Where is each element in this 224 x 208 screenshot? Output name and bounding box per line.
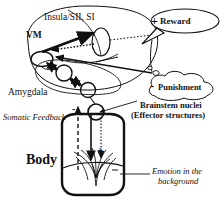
label-insula: Insula/SII, SI bbox=[44, 13, 95, 23]
body-container bbox=[62, 114, 124, 195]
punishment-minus-sign: - bbox=[150, 80, 154, 92]
label-punishment: Punishment bbox=[158, 83, 201, 92]
label-reward: Reward bbox=[160, 17, 191, 26]
somatic-feedback-minus-sign: - bbox=[72, 104, 75, 114]
label-effector-structures: (Effector structures) bbox=[131, 111, 205, 120]
label-body: Body bbox=[26, 153, 57, 167]
label-somatic-feedback: Somatic Feedback bbox=[3, 113, 66, 122]
sulcus-tick bbox=[96, 57, 118, 62]
figure-canvas: Insula/SII, SI VM Amygdala + Reward - Pu… bbox=[0, 0, 224, 208]
label-emotion-line2: background bbox=[158, 177, 198, 186]
insula-ellipse bbox=[92, 28, 110, 56]
label-emotion-line1: Emotion in the bbox=[152, 167, 202, 176]
nucleus-amygdala-circle bbox=[56, 65, 72, 81]
link-output-to-brainstem bbox=[90, 97, 95, 104]
label-amygdala: Amygdala bbox=[8, 88, 48, 98]
arrow-vm-to-insula bbox=[42, 33, 93, 52]
body-minus-sign: - bbox=[87, 148, 90, 158]
label-vm: VM bbox=[26, 31, 42, 41]
reward-plus-sign: + bbox=[151, 15, 158, 27]
body-viscera-strokes bbox=[74, 148, 116, 186]
label-brainstem-nuclei: Brainstem nuclei bbox=[140, 101, 202, 110]
body-plus-sign: + bbox=[97, 145, 103, 156]
